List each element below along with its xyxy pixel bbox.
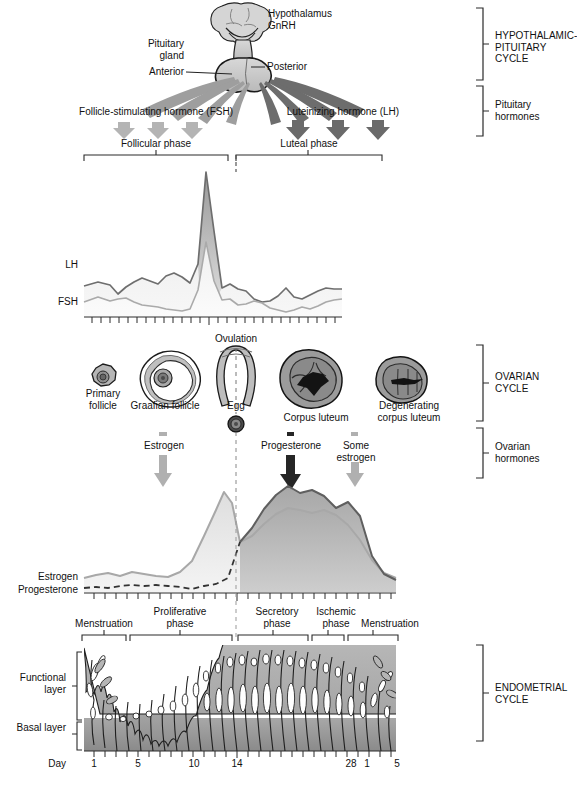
endometrial-cycle-label: ENDOMETRIAL CYCLE bbox=[495, 682, 567, 705]
day-tick-1: 1 bbox=[84, 758, 104, 770]
some-estrogen-arrow-label: Some estrogen bbox=[332, 440, 380, 463]
endometrial-cycle-bracket bbox=[476, 645, 489, 741]
phase-brackets-endometrial bbox=[82, 630, 398, 641]
pituitary-gland-label: Pituitary gland bbox=[118, 38, 184, 61]
corpus-luteum-label: Corpus luteum bbox=[272, 412, 360, 424]
hypothalamic-pituitary-bracket bbox=[476, 8, 489, 80]
pituitary-hormones-chart bbox=[84, 172, 342, 325]
functional-layer-bracket bbox=[72, 652, 82, 720]
hypothalamic-pituitary-cycle-label: HYPOTHALAMIC- PITUITARY CYCLE bbox=[495, 30, 577, 65]
basal-layer-bracket bbox=[72, 722, 82, 750]
day-tick-5: 5 bbox=[128, 758, 148, 770]
egg-label: Egg bbox=[210, 400, 262, 412]
fsh-axis-label: FSH bbox=[40, 296, 78, 308]
proliferative-label: Proliferative phase bbox=[142, 606, 218, 629]
ovarian-hormones-bracket bbox=[476, 428, 489, 478]
primary-follicle-icon bbox=[92, 364, 116, 386]
anterior-label: Anterior bbox=[118, 66, 184, 78]
day-label: Day bbox=[0, 758, 66, 770]
menstruation-2-label: Menstruation bbox=[352, 618, 428, 630]
lh-label: Luteinizing hormone (LH) bbox=[250, 106, 436, 118]
day-tick-5b: 5 bbox=[387, 758, 407, 770]
fsh-arrows bbox=[113, 122, 203, 139]
right-side-brackets bbox=[476, 8, 489, 741]
graafian-follicle-label: Graafian follicle bbox=[118, 400, 212, 412]
secretory-label: Secretory phase bbox=[244, 606, 310, 629]
functional-layer-label: Functional layer bbox=[0, 672, 66, 695]
phase-brackets-top bbox=[84, 150, 382, 161]
basal-layer-label: Basal layer bbox=[0, 722, 66, 734]
luteal-phase-label: Luteal phase bbox=[264, 138, 354, 150]
estrogen-arrow-label: Estrogen bbox=[128, 440, 200, 452]
ovarian-hormones-label: Ovarian hormones bbox=[495, 441, 539, 464]
ovulation-label: Ovulation bbox=[196, 333, 276, 345]
pituitary-hormones-bracket bbox=[476, 86, 489, 136]
ovarian-cycle-label: OVARIAN CYCLE bbox=[495, 371, 539, 394]
menstruation-1-label: Menstruation bbox=[68, 618, 140, 630]
fsh-label: Follicle-stimulating hormone (FSH) bbox=[56, 106, 256, 118]
degenerating-corpus-luteum-label: Degenerating corpus luteum bbox=[358, 400, 460, 423]
corpus-luteum-icon bbox=[280, 350, 342, 409]
pituitary-hormones-label: Pituitary hormones bbox=[495, 99, 539, 122]
day-tick-1b: 1 bbox=[357, 758, 377, 770]
posterior-label: Posterior bbox=[267, 61, 307, 73]
degenerating-corpus-luteum-icon bbox=[376, 357, 427, 403]
hypothalamus-label: Hypothalamus GnRH bbox=[268, 8, 332, 31]
ovarian-cycle-bracket bbox=[476, 345, 489, 421]
lh-arrows bbox=[286, 120, 390, 140]
progesterone-arrow-label: Progesterone bbox=[248, 440, 334, 452]
day-tick-14: 14 bbox=[227, 758, 247, 770]
follicular-phase-label: Follicular phase bbox=[106, 138, 206, 150]
lh-axis-label: LH bbox=[48, 259, 78, 271]
estrogen-axis-label: Estrogen bbox=[6, 571, 78, 583]
progesterone-axis-label: Progesterone bbox=[0, 584, 78, 596]
ovarian-hormones-chart bbox=[84, 486, 396, 601]
day-tick-10: 10 bbox=[184, 758, 204, 770]
graafian-follicle-icon bbox=[140, 351, 200, 407]
